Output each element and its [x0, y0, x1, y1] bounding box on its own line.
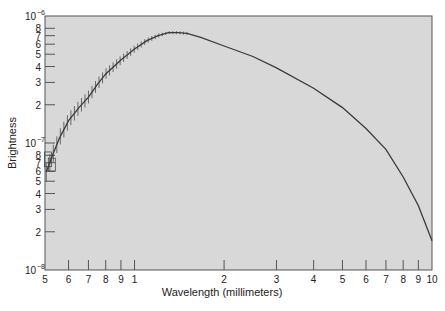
y-tick-label: 2: [35, 227, 41, 238]
y-tick-label: 8: [35, 150, 41, 161]
y-tick-label: 10: [25, 138, 37, 149]
x-tick-label: 5: [340, 274, 346, 285]
y-tick-label: 10: [25, 11, 37, 22]
x-tick-label: 8: [400, 274, 406, 285]
x-tick-label: 9: [416, 274, 422, 285]
x-tick-label: 1: [132, 274, 138, 285]
y-tick-exponent: −6: [37, 9, 45, 16]
x-tick-label: 6: [66, 274, 72, 285]
x-tick-label: 5: [42, 274, 48, 285]
x-tick-label: 3: [274, 274, 280, 285]
x-axis-title: Wavelength (millimeters): [162, 286, 283, 298]
y-tick-exponent: −8: [37, 263, 45, 270]
brightness-wavelength-chart: 5678912345678910 10−8234567810−723456781…: [0, 0, 445, 311]
y-tick-label: 4: [35, 189, 41, 200]
x-tick-label: 8: [103, 274, 109, 285]
x-tick-label: 9: [118, 274, 124, 285]
y-tick-label: 5: [35, 176, 41, 187]
x-tick-label: 6: [363, 274, 369, 285]
y-tick-label: 8: [35, 23, 41, 34]
x-tick-label: 4: [311, 274, 317, 285]
plot-area: [45, 16, 432, 270]
y-tick-label: 5: [35, 49, 41, 60]
y-tick-label: 4: [35, 62, 41, 73]
x-tick-label: 2: [221, 274, 227, 285]
y-axis-title: Brightness: [6, 117, 18, 169]
x-tick-label: 7: [86, 274, 92, 285]
y-tick-label: 3: [35, 204, 41, 215]
y-tick-label: 3: [35, 77, 41, 88]
y-tick-label: 10: [25, 265, 37, 276]
x-tick-label: 7: [383, 274, 389, 285]
y-tick-exponent: −7: [37, 136, 45, 143]
x-tick-label: 10: [426, 274, 438, 285]
y-tick-label: 2: [35, 100, 41, 111]
